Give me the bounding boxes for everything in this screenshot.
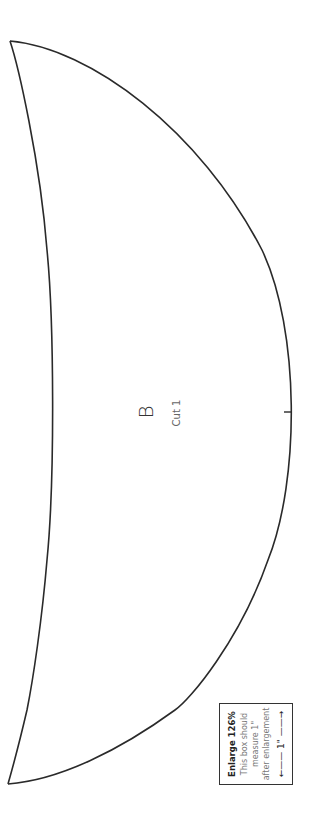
cut-instruction: Cut 1	[171, 400, 182, 427]
scale-text-3: after enlargement	[262, 708, 271, 781]
scale-box: Enlarge 126% This box should measure 1" …	[219, 703, 293, 785]
pattern-piece-outline	[0, 0, 316, 825]
scale-text-1: This box should	[240, 713, 249, 775]
piece-letter: B	[134, 405, 158, 418]
scale-title: Enlarge 126%	[227, 711, 237, 777]
inner-curve	[8, 41, 53, 784]
scale-text-2: measure 1"	[251, 721, 260, 767]
measure-arrow-icon: ←—— 1" ——→	[276, 711, 286, 778]
